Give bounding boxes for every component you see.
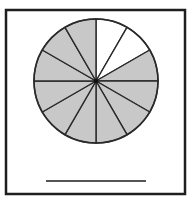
fraction-circle xyxy=(34,19,158,143)
center-point xyxy=(94,79,98,83)
fraction-figure xyxy=(0,0,191,199)
